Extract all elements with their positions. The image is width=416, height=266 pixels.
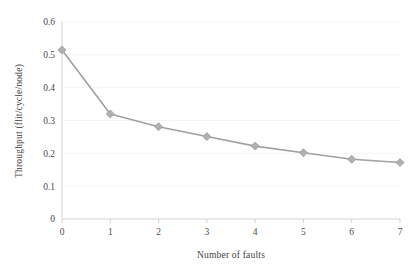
x-axis-tick-label: 4: [253, 227, 258, 237]
y-axis-tick-label: 0.5: [43, 50, 55, 60]
x-axis-tick-label: 2: [156, 227, 161, 237]
x-axis-tick-label: 5: [301, 227, 306, 237]
x-axis-tick-label: 3: [204, 227, 209, 237]
y-axis-title: Throughput (flit/cycle/node): [14, 64, 25, 178]
y-axis-tick-label: 0.1: [43, 182, 55, 192]
y-axis-tick-label: 0.2: [43, 149, 55, 159]
x-axis-tick-label: 6: [349, 227, 354, 237]
throughput-line-chart: 00.10.20.30.40.50.6 01234567 Number of f…: [0, 0, 416, 266]
y-axis-tick-label: 0.6: [43, 17, 55, 27]
x-axis-tick-label: 7: [398, 227, 403, 237]
y-axis-tick-label: 0: [50, 214, 55, 224]
chart-container: 00.10.20.30.40.50.6 01234567 Number of f…: [0, 0, 416, 266]
x-axis-tick-label: 1: [108, 227, 113, 237]
y-axis-tick-label: 0.4: [43, 83, 55, 93]
x-axis-tick-label: 0: [60, 227, 65, 237]
x-axis-title: Number of faults: [197, 250, 265, 260]
y-axis-tick-label: 0.3: [43, 116, 55, 126]
